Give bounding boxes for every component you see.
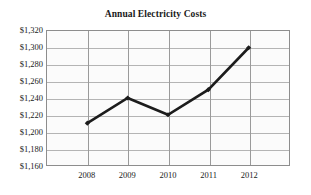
y-axis-tick-label: $1,220 [0, 110, 43, 120]
x-axis-tick-label: 2009 [105, 170, 149, 180]
y-axis-tick-label: $1,300 [0, 42, 43, 52]
y-axis-tick-label: $1,200 [0, 127, 43, 137]
x-axis-tick-label: 2012 [227, 170, 271, 180]
y-axis-tick-label: $1,160 [0, 161, 43, 171]
y-axis-tick-label: $1,240 [0, 93, 43, 103]
series-polyline [87, 48, 248, 123]
x-axis-tick-label: 2010 [146, 170, 190, 180]
plot-area: 2008: $1,2102009: $1,2402010: $1,2202011… [46, 30, 290, 166]
y-axis-tick-label: $1,320 [0, 25, 43, 35]
x-axis-tick-label: 2008 [65, 170, 109, 180]
y-axis-tick-label: $1,280 [0, 59, 43, 69]
x-axis-tick-label: 2011 [187, 170, 231, 180]
chart-title: Annual Electricity Costs [0, 9, 311, 19]
data-series-line: 2008: $1,2102009: $1,2402010: $1,2202011… [47, 31, 289, 165]
y-axis-tick-label: $1,260 [0, 76, 43, 86]
annual-electricity-costs-chart: Annual Electricity Costs $1,320$1,300$1,… [0, 0, 311, 195]
y-axis-tick-label: $1,180 [0, 144, 43, 154]
